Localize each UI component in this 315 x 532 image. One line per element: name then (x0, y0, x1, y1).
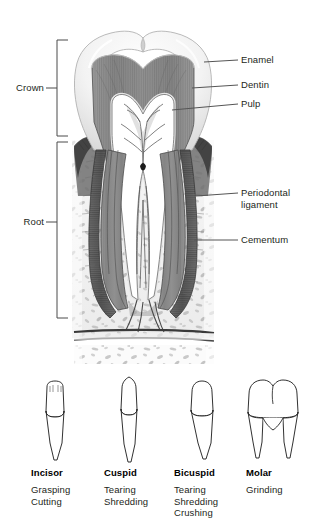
crown-bracket (46, 40, 68, 136)
tooth-type-name-bicuspid: Bicuspid (174, 467, 215, 478)
tooth-type-functions-bicuspid: Tearing Shredding Crushing (174, 484, 218, 519)
bracket-label-root: Root (2, 216, 44, 227)
tooth-type-functions-incisor: Grasping Cutting (31, 484, 70, 507)
leader-enamel (204, 60, 238, 62)
bracket-label-crown: Crown (2, 82, 44, 93)
tooth-type-incisor-shape (46, 381, 64, 460)
alveolar-canal (74, 330, 214, 364)
callout-label-dentin: Dentin (241, 79, 269, 91)
tooth-type-functions-molar: Grinding (246, 484, 283, 496)
tooth-anatomy-figure: Crown Root Enamel Dentin Pulp Periodonta… (0, 0, 315, 532)
tooth-type-cuspid-shape (121, 377, 137, 462)
tooth-type-name-molar: Molar (246, 467, 272, 478)
callout-label-pulp: Pulp (241, 98, 260, 110)
tooth-type-functions-cuspid: Tearing Shredding (104, 484, 148, 507)
tooth-type-name-cuspid: Cuspid (104, 467, 137, 478)
callout-label-cementum: Cementum (241, 234, 288, 246)
root-bracket (46, 142, 68, 318)
tooth-type-bicuspid-shape (191, 381, 213, 459)
tooth-type-molar-shape (248, 380, 298, 458)
callout-label-periodontal-ligament: Periodontal ligament (241, 187, 290, 210)
callout-label-enamel: Enamel (241, 54, 274, 66)
tooth-type-name-incisor: Incisor (31, 467, 63, 478)
